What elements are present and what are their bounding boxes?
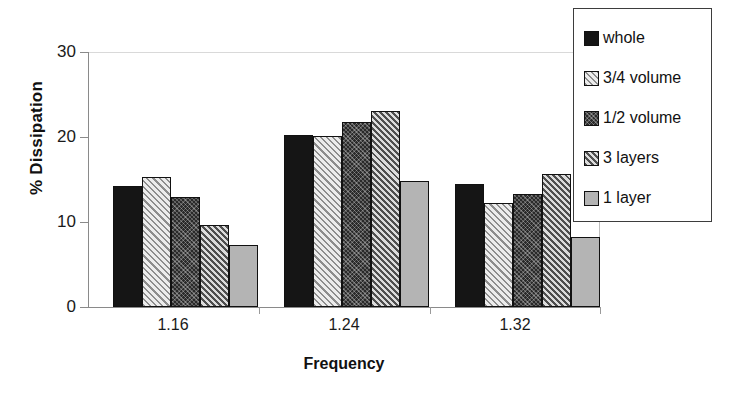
bar-3-4-volume-1.16[interactable] [142, 177, 171, 307]
bar-3-layers-1.16[interactable] [200, 225, 229, 307]
bar-whole-1.16[interactable] [113, 186, 142, 307]
x-axis-end-tick [600, 307, 601, 314]
legend-swatch-1-layer-icon [584, 191, 599, 206]
y-tick-20 [80, 137, 88, 138]
bar-whole-1.32[interactable] [455, 184, 484, 307]
y-tick-10 [80, 222, 88, 223]
legend-label-3-4-volume: 3/4 volume [603, 70, 681, 86]
legend-swatch-3-4-volume-icon [584, 71, 599, 86]
legend-label-3-layers: 3 layers [603, 150, 659, 166]
bar-whole-1.24[interactable] [284, 135, 313, 307]
bar-3-4-volume-1.24[interactable] [313, 136, 342, 307]
bar-1-layer-1.24[interactable] [400, 181, 429, 307]
bar-1-2-volume-1.32[interactable] [513, 194, 542, 307]
legend-label-whole: whole [603, 30, 645, 46]
bar-group-1.16 [113, 52, 258, 307]
bar-chart-figure: 30 20 10 0 % Dissipation 1.16 1.24 1.32 … [0, 0, 739, 405]
x-axis-line [88, 307, 601, 308]
bar-3-layers-1.24[interactable] [371, 111, 400, 307]
legend-item-3-layers[interactable]: 3 layers [584, 138, 711, 178]
bar-group-1.24 [284, 52, 429, 307]
legend-label-1-layer: 1 layer [603, 190, 651, 206]
x-tick-label-3: 1.32 [460, 316, 570, 334]
bar-3-layers-1.32[interactable] [542, 174, 571, 307]
legend-box: whole 3/4 volume 1/2 volume 3 layers 1 l… [573, 8, 712, 222]
x-category-separator [430, 307, 431, 314]
y-axis-title: % Dissipation [27, 28, 47, 248]
x-axis-title: Frequency [88, 355, 600, 373]
legend-item-1-layer[interactable]: 1 layer [584, 178, 711, 218]
legend-swatch-3-layers-icon [584, 151, 599, 166]
bar-1-2-volume-1.24[interactable] [342, 122, 371, 307]
legend-item-3-4-volume[interactable]: 3/4 volume [584, 58, 711, 98]
bar-1-2-volume-1.16[interactable] [171, 197, 200, 307]
y-tick-0 [80, 307, 88, 308]
x-tick-label-2: 1.24 [289, 316, 399, 334]
y-tick-30 [80, 52, 88, 53]
bar-3-4-volume-1.32[interactable] [484, 203, 513, 307]
bar-1-layer-1.32[interactable] [571, 237, 600, 308]
legend-swatch-1-2-volume-icon [584, 111, 599, 126]
legend-label-1-2-volume: 1/2 volume [603, 110, 681, 126]
legend-swatch-whole-icon [584, 31, 599, 46]
y-tick-label-0: 0 [36, 297, 76, 317]
legend-item-whole[interactable]: whole [584, 18, 711, 58]
x-tick-label-1: 1.16 [118, 316, 228, 334]
legend-item-1-2-volume[interactable]: 1/2 volume [584, 98, 711, 138]
x-category-separator [259, 307, 260, 314]
bar-1-layer-1.16[interactable] [229, 245, 258, 307]
y-axis-line [88, 52, 89, 307]
